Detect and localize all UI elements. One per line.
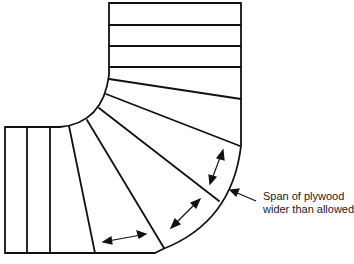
span-arrow [171, 199, 200, 228]
stair-outline [5, 3, 241, 253]
span-arrow [209, 150, 224, 184]
annotation-label: Span of plywood wider than allowed [263, 190, 354, 216]
winder-line [69, 126, 95, 253]
winder-line [87, 120, 164, 248]
winder-line [99, 108, 219, 201]
annotation-line-2: wider than allowed [263, 203, 354, 216]
winder-line [109, 79, 241, 99]
span-arrow [103, 231, 146, 244]
winder-line [106, 94, 240, 146]
annotation-line-1: Span of plywood [263, 190, 354, 203]
callout-arrow [230, 189, 256, 201]
